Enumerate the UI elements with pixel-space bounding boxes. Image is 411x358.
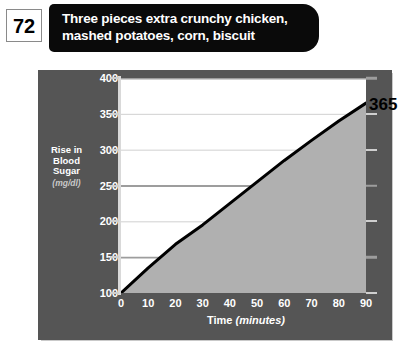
- y-tick-mark-left-300: [110, 149, 119, 151]
- y-tick-mark-left-350: [110, 113, 119, 115]
- x-axis-tick-60: 60: [278, 297, 290, 309]
- area-fill: [121, 103, 366, 293]
- y-axis-title-line-2: Blood: [53, 155, 80, 166]
- y-tick-mark-right-250: [366, 184, 377, 187]
- y-tick-mark-left-150: [110, 256, 119, 258]
- y-tick-mark-right-150: [366, 256, 377, 259]
- y-tick-mark-right-350: [366, 113, 377, 115]
- page-title-line-1: Three pieces extra crunchy chicken,: [62, 10, 312, 27]
- y-axis-unit: (mg/dl): [43, 178, 90, 189]
- page-number-box: 72: [6, 9, 42, 42]
- x-axis-tick-0: 0: [118, 297, 124, 309]
- y-axis-title-line-1: Rise in: [51, 144, 82, 155]
- x-axis-tick-70: 70: [305, 297, 317, 309]
- x-axis-tick-90: 90: [360, 297, 372, 309]
- page-title-line-2: mashed potatoes, corn, biscuit: [62, 27, 312, 44]
- y-tick-mark-right-400: [366, 77, 377, 80]
- page-number: 72: [13, 16, 35, 36]
- x-axis-title: Time (minutes): [121, 314, 371, 326]
- x-axis-tick-40: 40: [224, 297, 236, 309]
- y-tick-mark-right-200: [366, 220, 377, 222]
- x-axis-tick-80: 80: [333, 297, 345, 309]
- y-axis-title-line-3: Sugar: [53, 165, 80, 176]
- y-tick-mark-left-100: [110, 292, 119, 294]
- x-axis-tick-10: 10: [142, 297, 154, 309]
- y-tick-mark-right-100: [366, 292, 377, 294]
- plot-area: [121, 78, 366, 293]
- y-axis-title: Rise in Blood Sugar (mg/dl): [43, 145, 90, 188]
- x-axis-tick-labels: 0102030405060708090: [121, 297, 371, 311]
- x-axis-unit: (minutes): [236, 314, 286, 326]
- y-tick-mark-left-250: [110, 185, 119, 187]
- x-axis-title-text: Time: [207, 314, 232, 326]
- y-tick-mark-right-300: [366, 149, 377, 151]
- y-tick-mark-left-200: [110, 220, 119, 222]
- end-value-label: 365: [369, 96, 397, 113]
- chart-header: 72 Three pieces extra crunchy chicken, m…: [0, 4, 411, 52]
- page-title: Three pieces extra crunchy chicken, mash…: [62, 10, 312, 44]
- y-tick-mark-left-400: [110, 77, 119, 79]
- chart-svg: [121, 78, 366, 293]
- x-axis-tick-30: 30: [197, 297, 209, 309]
- x-axis-tick-20: 20: [169, 297, 181, 309]
- x-axis-tick-50: 50: [251, 297, 263, 309]
